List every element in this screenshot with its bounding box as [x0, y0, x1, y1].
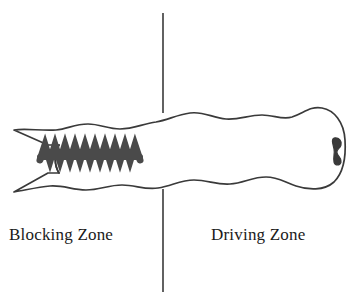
diagram-canvas: Blocking Zone Driving Zone — [0, 0, 358, 305]
diagram-svg — [0, 0, 358, 305]
driving-zone-label: Driving Zone — [211, 225, 305, 245]
blocking-zone-label: Blocking Zone — [9, 225, 113, 245]
